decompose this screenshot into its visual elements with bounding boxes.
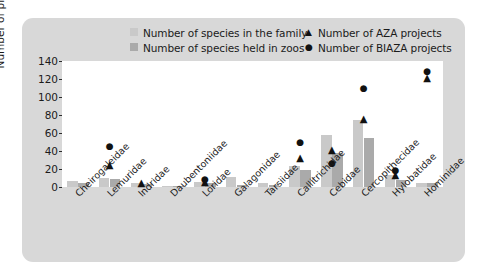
legend-circle-icon: ● <box>305 43 313 51</box>
bar-group <box>226 61 248 187</box>
legend-item-species-in-zoos: Number of species held in zoos <box>130 37 304 51</box>
legend-triangle-icon: ▲ <box>305 28 313 36</box>
marker-biaza-project: ● <box>358 84 370 93</box>
y-axis-tick-label: 100 <box>22 92 58 103</box>
marker-biaza-project: ● <box>421 67 433 76</box>
marker-aza-project: ▲ <box>358 114 370 124</box>
y-axis-tick-label: 140 <box>22 56 58 67</box>
y-axis: 020406080100120140 <box>20 61 58 187</box>
y-axis-title: Number of projects <box>0 0 6 78</box>
bar-species-in-family <box>99 178 110 187</box>
x-axis-tick-labels: CheirogaleidaeLemuridaeIndridaeDaubenton… <box>62 188 443 258</box>
legend-item-species-in-family: Number of species in the family <box>130 22 307 36</box>
legend-swatch-dark-icon <box>130 43 138 51</box>
marker-biaza-project: ● <box>294 138 306 147</box>
y-axis-tick-label: 40 <box>22 146 58 157</box>
y-axis-tick-label: 120 <box>22 74 58 85</box>
chart-figure: Number of species in the family Number o… <box>0 0 487 275</box>
bar-group <box>67 61 89 187</box>
marker-aza-project: ▲ <box>294 153 306 163</box>
y-axis-tick-label: 0 <box>22 182 58 193</box>
y-axis-tick-label: 20 <box>22 164 58 175</box>
legend-item-aza-projects: ▲Number of AZA projects <box>305 22 442 36</box>
chart-legend: Number of species in the family Number o… <box>130 22 440 54</box>
legend-swatch-light-icon <box>130 28 138 36</box>
legend-item-biaza-projects: ●Number of BIAZA projects <box>305 37 452 51</box>
y-axis-tick-label: 80 <box>22 110 58 121</box>
legend-label-species-in-zoos: Number of species held in zoos <box>143 42 304 54</box>
legend-label-biaza-projects: Number of BIAZA projects <box>318 42 452 54</box>
y-axis-tick-label: 60 <box>22 128 58 139</box>
